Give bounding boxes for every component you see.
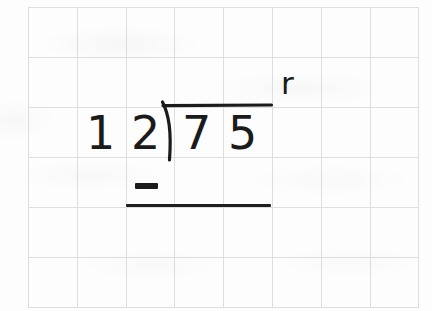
divisor-ones-digit: 2 <box>131 110 160 156</box>
remainder-label: r <box>281 68 294 99</box>
long-division-worksheet: 1 2 7 5 r <box>0 0 432 311</box>
dividend-ones-digit: 5 <box>228 110 257 156</box>
grid-bottom-edge-line <box>28 307 419 308</box>
divisor-tens-digit: 1 <box>86 110 115 156</box>
grid-right-edge-line <box>418 7 419 307</box>
minus-sign-icon <box>135 183 158 189</box>
dividend-tens-digit: 7 <box>182 110 211 156</box>
division-bracket-icon <box>158 99 276 161</box>
subtraction-rule-line <box>126 204 271 207</box>
